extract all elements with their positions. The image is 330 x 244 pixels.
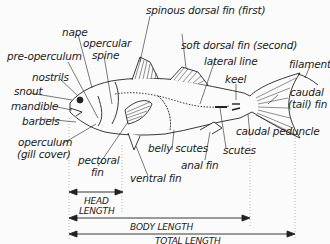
label-pectoral-fin-line1: pectoral bbox=[78, 155, 120, 166]
label-barbels: barbels bbox=[22, 116, 60, 127]
label-opercular-spine-line2: spine bbox=[92, 50, 119, 61]
label-spinous-dorsal-fin: spinous dorsal fin (first) bbox=[146, 5, 265, 16]
label-total-length: TOTAL LENGTH bbox=[155, 236, 221, 244]
label-keel: keel bbox=[225, 74, 246, 85]
label-filament: filament bbox=[289, 59, 330, 70]
label-scutes: scutes bbox=[223, 145, 256, 156]
label-lateral-line: lateral line bbox=[204, 56, 257, 67]
label-body-length: BODY LENGTH bbox=[130, 222, 193, 232]
label-mandible: mandible bbox=[11, 101, 58, 112]
label-ventral-fin: ventral fin bbox=[130, 173, 182, 184]
label-pectoral-fin-line2: fin bbox=[91, 167, 104, 178]
label-head-length-line2: LENGTH bbox=[79, 206, 114, 216]
label-opercular-spine-line1: opercular bbox=[83, 38, 131, 49]
label-operculum-line1: operculum bbox=[18, 137, 72, 148]
label-caudal-fin-line2: (tail) fin bbox=[288, 99, 327, 110]
fish-anatomy-diagram: spinous dorsal fin (first) nape opercula… bbox=[0, 0, 330, 244]
label-soft-dorsal-fin: soft dorsal fin (second) bbox=[181, 40, 297, 51]
label-pre-operculum: pre-operculum bbox=[7, 51, 82, 62]
label-operculum-line2: (gill cover) bbox=[17, 149, 71, 160]
label-head-length-line1: HEAD bbox=[84, 196, 109, 206]
label-caudal-peduncle: caudal peduncle bbox=[236, 126, 319, 137]
label-nostrils: nostrils bbox=[32, 72, 69, 83]
label-belly-scutes: belly scutes bbox=[148, 143, 208, 154]
label-caudal-fin-line1: caudal bbox=[290, 87, 324, 98]
label-snout: snout bbox=[14, 86, 42, 97]
label-anal-fin: anal fin bbox=[181, 160, 218, 171]
